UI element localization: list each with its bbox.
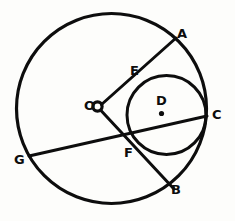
inner-center-dot bbox=[159, 111, 164, 116]
point-label-O: O bbox=[84, 99, 95, 112]
point-label-G: G bbox=[14, 153, 25, 166]
point-label-F: F bbox=[124, 146, 133, 159]
chord-G-C bbox=[29, 116, 207, 156]
geometry-canvas bbox=[0, 0, 235, 221]
point-label-C: C bbox=[212, 108, 222, 121]
geometry-figure: A E D C O F G B bbox=[0, 0, 235, 221]
segment-O-B bbox=[101, 110, 175, 189]
point-label-A: A bbox=[177, 27, 187, 40]
point-label-E: E bbox=[130, 64, 139, 77]
outer-circle bbox=[17, 14, 207, 204]
inner-circle bbox=[127, 76, 206, 155]
point-label-B: B bbox=[171, 183, 181, 196]
point-label-D: D bbox=[156, 94, 167, 107]
